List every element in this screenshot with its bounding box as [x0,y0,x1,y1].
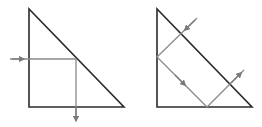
right-prism-triangle [157,9,252,107]
right-ray-arrow-out-icon [231,74,240,83]
right-ray-arrow-mid-icon [175,75,184,84]
left-light-ray [10,59,76,121]
right-diagram [157,9,252,107]
right-light-ray [157,18,244,107]
left-diagram [10,9,124,121]
right-ray-arrow-in-icon [186,20,195,29]
prism-diagrams [0,0,262,127]
